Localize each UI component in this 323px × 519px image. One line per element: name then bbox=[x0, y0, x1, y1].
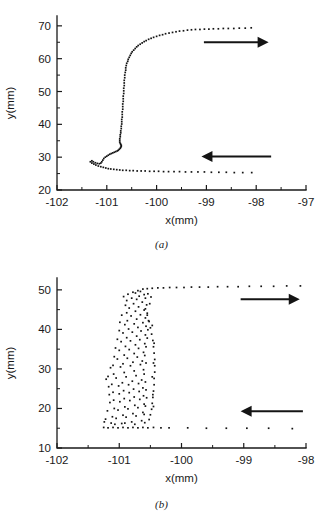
data-point bbox=[143, 395, 145, 397]
data-point bbox=[128, 328, 130, 330]
arrow-left-icon bbox=[201, 151, 212, 162]
data-point bbox=[110, 367, 112, 369]
data-point bbox=[238, 27, 240, 29]
data-point bbox=[131, 421, 133, 423]
data-point bbox=[173, 171, 175, 173]
data-point bbox=[134, 423, 136, 425]
data-point bbox=[126, 62, 128, 64]
data-point bbox=[122, 363, 124, 365]
data-point bbox=[136, 356, 138, 358]
data-point bbox=[118, 393, 120, 395]
data-point bbox=[175, 31, 177, 33]
figure-panel-b: 1020304050-102-101-100-99-98x(mm)y(mm) (… bbox=[0, 258, 323, 519]
data-point bbox=[127, 408, 129, 410]
data-point bbox=[145, 334, 147, 336]
data-point bbox=[145, 325, 147, 327]
data-point bbox=[135, 344, 137, 346]
data-point bbox=[122, 108, 124, 110]
y-tick-label: 70 bbox=[38, 20, 51, 32]
data-point bbox=[124, 406, 126, 408]
data-point bbox=[112, 152, 114, 154]
data-point bbox=[97, 165, 99, 167]
data-point bbox=[120, 128, 122, 130]
data-point bbox=[100, 166, 102, 168]
x-tick-label: -101 bbox=[108, 454, 131, 466]
data-point bbox=[133, 353, 135, 355]
data-point bbox=[131, 51, 133, 53]
data-point bbox=[250, 27, 252, 29]
data-point bbox=[125, 67, 127, 69]
data-point bbox=[123, 398, 125, 400]
data-point bbox=[147, 293, 149, 295]
data-point bbox=[218, 28, 220, 30]
data-point bbox=[123, 85, 125, 87]
data-point bbox=[145, 308, 147, 310]
data-point bbox=[122, 101, 124, 103]
data-point bbox=[140, 330, 142, 332]
data-point bbox=[227, 28, 229, 30]
data-point bbox=[291, 428, 293, 430]
data-point bbox=[146, 312, 148, 314]
data-point bbox=[132, 413, 134, 415]
data-point bbox=[141, 301, 143, 303]
data-point bbox=[132, 291, 134, 293]
data-point bbox=[160, 427, 162, 429]
data-point bbox=[154, 359, 156, 361]
data-point bbox=[157, 287, 159, 289]
data-point bbox=[132, 170, 134, 172]
data-point bbox=[227, 286, 229, 288]
data-point bbox=[137, 327, 139, 329]
data-point bbox=[123, 80, 125, 82]
data-point bbox=[126, 337, 128, 339]
data-point bbox=[154, 365, 156, 367]
data-point bbox=[124, 72, 126, 74]
data-point bbox=[98, 163, 100, 165]
data-point bbox=[125, 376, 127, 378]
data-point bbox=[126, 312, 128, 314]
data-point bbox=[121, 119, 123, 121]
data-point bbox=[139, 339, 141, 341]
data-point bbox=[103, 158, 105, 160]
y-tick-label: 60 bbox=[38, 53, 51, 65]
data-point bbox=[125, 346, 127, 348]
data-point bbox=[143, 414, 145, 416]
data-point bbox=[122, 98, 124, 100]
data-point bbox=[273, 285, 275, 287]
data-point bbox=[176, 287, 178, 289]
data-point bbox=[147, 427, 149, 429]
x-tick-label: -100 bbox=[145, 196, 168, 208]
data-point bbox=[207, 286, 209, 288]
data-point bbox=[199, 29, 201, 31]
data-point bbox=[208, 28, 210, 30]
data-point bbox=[105, 378, 107, 380]
data-point bbox=[127, 60, 129, 62]
data-point bbox=[91, 162, 93, 164]
data-point bbox=[145, 389, 147, 391]
data-point bbox=[116, 169, 118, 171]
data-point bbox=[146, 288, 148, 290]
data-point bbox=[118, 385, 120, 387]
data-point bbox=[126, 357, 128, 359]
data-point bbox=[242, 172, 244, 174]
data-point bbox=[150, 327, 152, 329]
data-point bbox=[137, 45, 139, 47]
data-point bbox=[153, 427, 155, 429]
data-point bbox=[113, 399, 115, 401]
data-point bbox=[130, 340, 132, 342]
data-point bbox=[125, 69, 127, 71]
data-point bbox=[95, 162, 97, 164]
data-point bbox=[129, 400, 131, 402]
data-point bbox=[260, 285, 262, 287]
data-point bbox=[142, 427, 144, 429]
data-point bbox=[138, 348, 140, 350]
data-point bbox=[103, 421, 105, 423]
data-point bbox=[120, 132, 122, 134]
data-point bbox=[153, 346, 155, 348]
data-point bbox=[122, 103, 124, 105]
data-point bbox=[199, 286, 201, 288]
x-tick-label: -98 bbox=[298, 454, 315, 466]
data-point bbox=[145, 297, 147, 299]
data-point bbox=[251, 172, 253, 174]
data-point bbox=[152, 397, 154, 399]
data-point bbox=[121, 116, 123, 118]
